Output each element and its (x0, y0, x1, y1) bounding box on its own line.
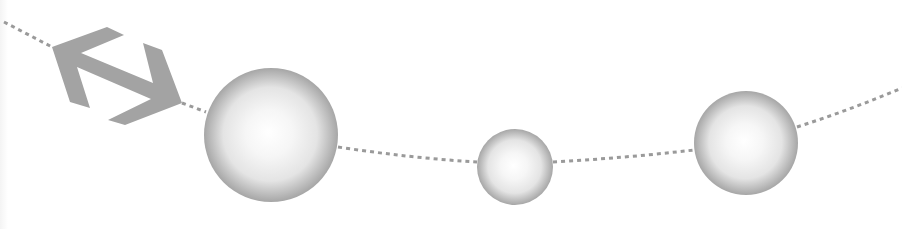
diagram-canvas (0, 0, 902, 229)
dotted-segment-small-to-medium (553, 150, 694, 162)
diagram-svg (0, 0, 902, 229)
sphere-large (204, 68, 338, 202)
dotted-segment-large-to-small (338, 147, 477, 162)
sphere-medium (694, 91, 798, 195)
sphere-small (477, 129, 553, 205)
spheres (204, 68, 798, 205)
dotted-segment-start (4, 22, 52, 47)
double-headed-arrow-icon (52, 27, 182, 125)
dotted-segment-end (797, 88, 902, 127)
dotted-segment-arrow-to-large (182, 103, 206, 112)
